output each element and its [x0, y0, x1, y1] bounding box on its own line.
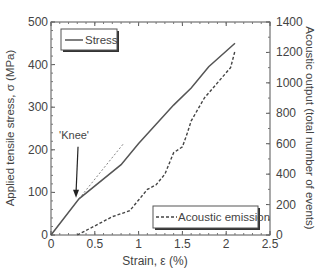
- knee-annotation: 'Knee': [59, 129, 89, 198]
- y2-tick-label: 1400: [276, 15, 303, 29]
- knee-label: 'Knee': [59, 129, 89, 141]
- y2-tick-label: 1000: [276, 76, 303, 90]
- x-tick-label: 0.5: [86, 237, 103, 251]
- legend-acoustic-emission: Acoustic emission: [153, 206, 270, 230]
- legend-label-stress: Stress: [85, 34, 118, 46]
- y-tick-label: 400: [28, 58, 48, 72]
- y2-tick-label: 200: [276, 198, 296, 212]
- y2-tick-label: 1200: [276, 45, 303, 59]
- chart: 00.511.522.50100200300400500020040060080…: [0, 0, 322, 272]
- y2-tick-label: 800: [276, 106, 296, 120]
- y-tick-label: 0: [41, 228, 48, 242]
- y2-tick-label: 0: [276, 228, 283, 242]
- x-tick-label: 2: [223, 237, 230, 251]
- y-tick-label: 500: [28, 15, 48, 29]
- x-tick-label: 1.5: [174, 237, 191, 251]
- knee-arrow-shaft: [76, 147, 78, 193]
- y2-tick-label: 600: [276, 137, 296, 151]
- y-axis-label: Applied tensile stress, σ (MPa): [4, 50, 16, 207]
- legend-label-acoustic-emission: Acoustic emission: [178, 211, 270, 223]
- series-linear-extrapolation: [79, 143, 124, 198]
- y-tick-label: 100: [28, 185, 48, 199]
- x-axis-label: Strain, ε (%): [122, 254, 187, 268]
- y-tick-label: 200: [28, 143, 48, 157]
- y2-axis-label: Acoustic output (total number of events): [304, 26, 316, 229]
- legend-stress: Stress: [61, 29, 119, 52]
- x-tick-label: 1: [135, 237, 142, 251]
- y-tick-label: 300: [28, 100, 48, 114]
- knee-arrow-head: [73, 190, 79, 198]
- x-tick-label: 0: [48, 237, 55, 251]
- y2-tick-label: 400: [276, 167, 296, 181]
